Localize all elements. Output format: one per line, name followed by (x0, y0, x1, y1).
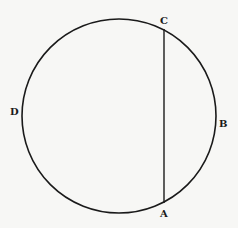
circle-diagram: C A D B (0, 0, 238, 228)
label-b: B (219, 118, 227, 129)
label-d: D (10, 106, 19, 117)
label-a: A (159, 208, 168, 219)
label-c: C (160, 15, 168, 26)
circle (22, 19, 216, 213)
